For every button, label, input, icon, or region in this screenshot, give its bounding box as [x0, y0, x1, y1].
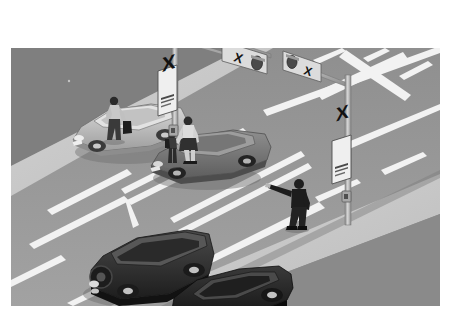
wheel-hub	[267, 292, 277, 298]
shoes	[183, 161, 197, 164]
wheel-hub	[173, 170, 181, 175]
shoes	[286, 226, 307, 230]
headlight	[91, 288, 99, 293]
wheel-hub	[243, 158, 251, 163]
person-shadow	[163, 163, 181, 168]
head	[110, 97, 118, 105]
headlight	[89, 281, 99, 288]
spare-tire-hub	[97, 273, 106, 282]
headlight	[74, 135, 84, 141]
sign-x-glyph: X	[336, 100, 349, 126]
sign-x-glyph: X	[162, 49, 176, 76]
headlight	[153, 161, 163, 167]
control-box-latch	[344, 194, 348, 199]
torso	[182, 125, 195, 139]
illustration-canvas: X X	[0, 0, 450, 316]
head	[184, 117, 193, 126]
person-shadow	[103, 139, 125, 145]
road-intersection-illustration: X X	[11, 48, 440, 306]
bag	[123, 121, 132, 134]
sign-panel	[332, 135, 351, 184]
wheel-hub	[189, 267, 199, 273]
skirt	[179, 138, 198, 151]
wheel-hub	[161, 132, 169, 137]
head	[294, 179, 304, 189]
wheel-hub	[93, 143, 101, 148]
surface-speck	[68, 80, 70, 82]
scene-svg: X X	[11, 48, 440, 306]
wheel-hub	[123, 288, 133, 294]
